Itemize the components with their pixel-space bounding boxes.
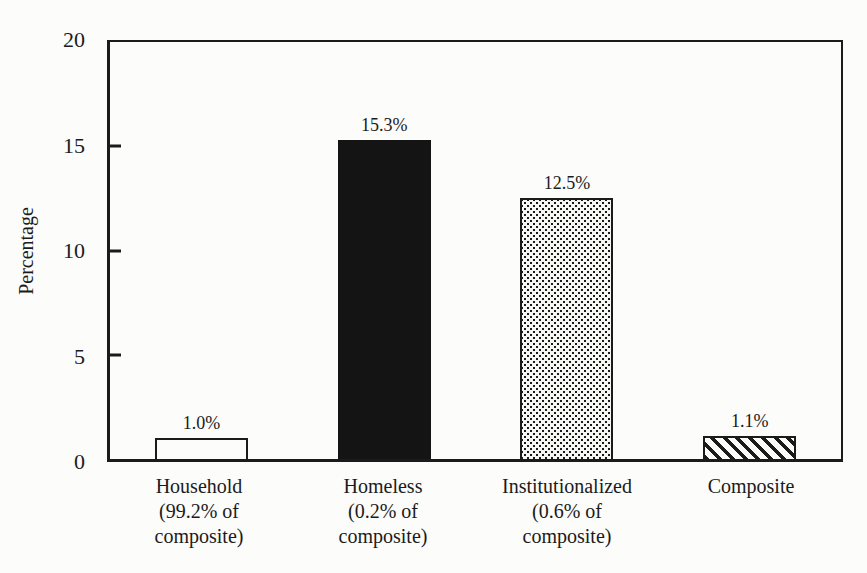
x-category-label-line: (0.6% of <box>475 499 659 524</box>
x-category-label-line: composite) <box>107 524 291 549</box>
x-category-label-line: (99.2% of <box>107 499 291 524</box>
bar-composite <box>703 436 796 459</box>
y-axis-tick-labels: 05101520 <box>40 40 97 462</box>
value-label-composite: 1.1% <box>731 412 769 430</box>
x-category-label-line: composite) <box>291 524 475 549</box>
x-category-label-line: Institutionalized <box>475 474 659 499</box>
x-category-label-line: Composite <box>659 474 843 499</box>
y-tick-label-15: 15 <box>63 135 85 157</box>
value-label-household: 1.0% <box>183 414 221 432</box>
bar-slot-household: 1.0% <box>110 42 293 459</box>
value-label-homeless: 15.3% <box>361 116 408 134</box>
bar-chart-figure: Percentage 05101520 1.0%15.3%12.5%1.1% H… <box>0 0 867 573</box>
y-tick-label-5: 5 <box>74 346 85 368</box>
y-tick-label-10: 10 <box>63 240 85 262</box>
x-category-label-line: composite) <box>475 524 659 549</box>
y-tick-label-20: 20 <box>63 29 85 51</box>
bar-household <box>155 438 248 459</box>
x-category-label-line: Household <box>107 474 291 499</box>
x-category-label-homeless: Homeless(0.2% ofcomposite) <box>291 474 475 549</box>
x-category-label-composite: Composite <box>659 474 843 549</box>
x-axis-category-labels: Household(99.2% ofcomposite)Homeless(0.2… <box>107 474 843 549</box>
bar-institutionalized <box>520 198 613 459</box>
x-category-label-line: (0.2% of <box>291 499 475 524</box>
bar-slot-homeless: 15.3% <box>293 42 476 459</box>
x-category-label-line: Homeless <box>291 474 475 499</box>
bar-slot-institutionalized: 12.5% <box>476 42 659 459</box>
plot-area: 1.0%15.3%12.5%1.1% <box>107 40 843 462</box>
bar-slot-composite: 1.1% <box>658 42 841 459</box>
value-label-institutionalized: 12.5% <box>544 174 591 192</box>
x-category-label-household: Household(99.2% ofcomposite) <box>107 474 291 549</box>
bar-homeless <box>338 140 431 459</box>
y-axis-title: Percentage <box>16 207 36 295</box>
y-axis-title-wrap: Percentage <box>12 40 40 462</box>
y-tick-label-0: 0 <box>74 451 85 473</box>
x-category-label-institutionalized: Institutionalized(0.6% ofcomposite) <box>475 474 659 549</box>
